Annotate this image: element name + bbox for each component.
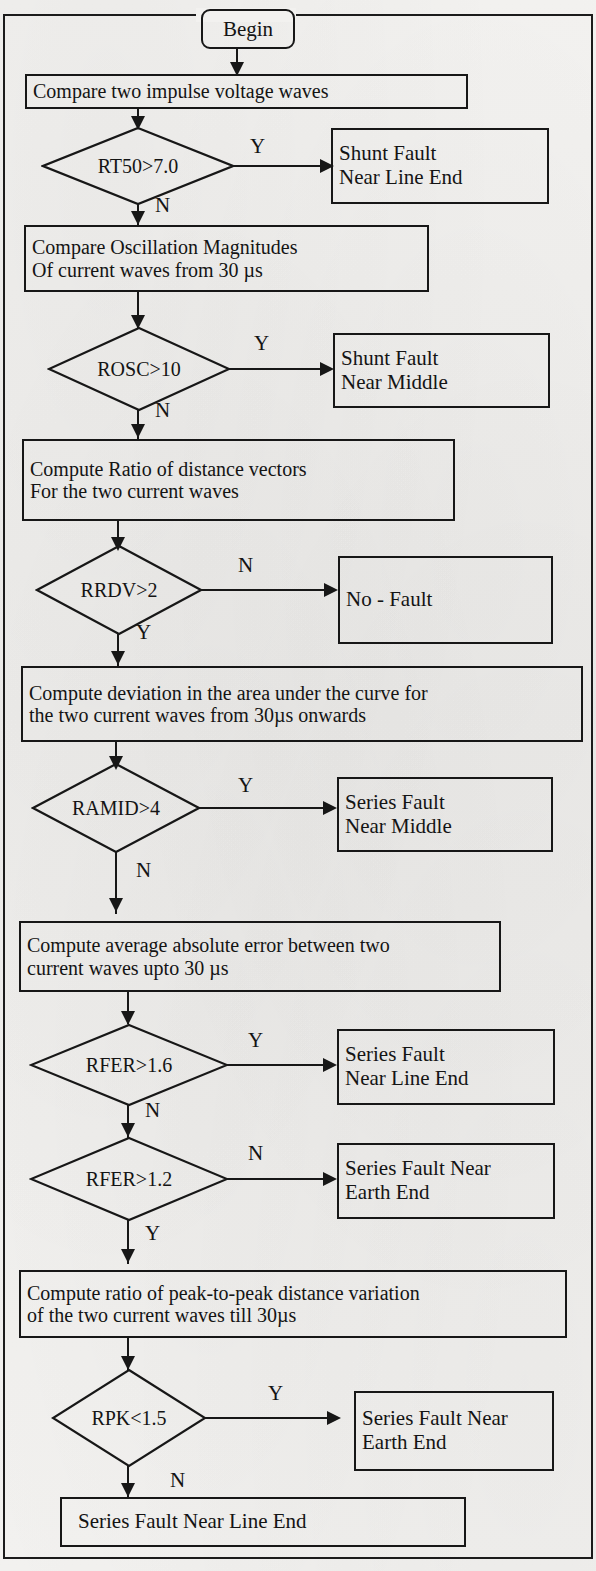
decision-label: RRDV>2 bbox=[81, 579, 158, 602]
process-line: Of current waves from 30 µs bbox=[32, 259, 423, 281]
edge-d5-yes bbox=[227, 1064, 331, 1066]
branch-label-d4-no: N bbox=[136, 860, 151, 881]
outcome-line: Near Middle bbox=[341, 371, 544, 395]
process-line: Compute ratio of peak-to-peak distance v… bbox=[27, 1282, 561, 1304]
begin-terminator: Begin bbox=[201, 9, 295, 49]
outcome-line: Near Line End bbox=[339, 166, 543, 190]
decision-label: RFER>1.6 bbox=[86, 1054, 172, 1077]
edge-d4-yes bbox=[199, 807, 331, 809]
arrowhead-d1-no bbox=[131, 211, 145, 225]
outcome-series-fault-near-earth-end-1: Series Fault Near Earth End bbox=[337, 1143, 555, 1219]
arrowhead-d2-no bbox=[131, 424, 145, 438]
decision-rfer-16: RFER>1.6 bbox=[29, 1023, 229, 1107]
process-compute-area-deviation: Compute deviation in the area under the … bbox=[21, 666, 583, 742]
process-line: current waves upto 30 µs bbox=[27, 957, 495, 979]
process-line: For the two current waves bbox=[30, 480, 449, 502]
process-compare-impulse-voltage: Compare two impulse voltage waves bbox=[25, 74, 468, 109]
outcome-line: Series Fault bbox=[345, 1043, 549, 1067]
branch-label-d3-yes: Y bbox=[136, 622, 151, 643]
branch-label-d5-yes: Y bbox=[248, 1030, 263, 1051]
decision-rpk-label-wrap: RPK<1.5 bbox=[51, 1368, 207, 1468]
flowchart-page: Begin Compare two impulse voltage waves … bbox=[0, 0, 596, 1571]
process-line: Compare Oscillation Magnitudes bbox=[32, 236, 423, 258]
branch-label-d2-no: N bbox=[155, 400, 170, 421]
branch-label-d5-no: N bbox=[145, 1100, 160, 1121]
outcome-line: Earth End bbox=[362, 1431, 548, 1455]
decision-rt50: RT50>7.0 bbox=[41, 126, 235, 206]
decision-rfer-16-label-wrap: RFER>1.6 bbox=[29, 1023, 229, 1107]
arrowhead-d4-no bbox=[109, 898, 123, 912]
arrowhead-d3-no bbox=[324, 583, 338, 597]
edge-d3-no bbox=[201, 589, 332, 591]
arrowhead-d6-no bbox=[323, 1172, 337, 1186]
begin-label: Begin bbox=[223, 19, 273, 40]
decision-label: RPK<1.5 bbox=[91, 1407, 166, 1430]
process-line: Compute deviation in the area under the … bbox=[29, 682, 577, 704]
process-compare-oscillation-magnitudes: Compare Oscillation Magnitudes Of curren… bbox=[24, 225, 429, 292]
outcome-line: Series Fault Near Line End bbox=[68, 1510, 460, 1534]
arrowhead-d2-yes bbox=[320, 362, 334, 376]
arrowhead-d7-yes bbox=[327, 1411, 341, 1425]
decision-label: ROSC>10 bbox=[97, 358, 181, 381]
outcome-line: Shunt Fault bbox=[339, 142, 543, 166]
decision-rfer-12: RFER>1.2 bbox=[29, 1136, 229, 1222]
edge-d2-yes bbox=[229, 368, 327, 370]
edge-d1-yes bbox=[234, 165, 327, 167]
process-compute-ratio-distance-vectors: Compute Ratio of distance vectors For th… bbox=[22, 439, 455, 521]
process-line: Compute Ratio of distance vectors bbox=[30, 458, 449, 480]
branch-label-d7-no: N bbox=[170, 1470, 185, 1491]
branch-label-d1-no: N bbox=[155, 195, 170, 216]
process-line: of the two current waves till 30µs bbox=[27, 1304, 561, 1326]
outcome-series-fault-near-middle: Series Fault Near Middle bbox=[337, 777, 553, 852]
decision-rrdv: RRDV>2 bbox=[35, 544, 203, 636]
outcome-shunt-fault-near-middle: Shunt Fault Near Middle bbox=[333, 333, 550, 408]
decision-rosc: ROSC>10 bbox=[47, 326, 231, 412]
outcome-line: Series Fault Near bbox=[345, 1157, 549, 1181]
branch-label-d6-no: N bbox=[248, 1143, 263, 1164]
decision-rosc-label-wrap: ROSC>10 bbox=[47, 326, 231, 412]
branch-label-d7-yes: Y bbox=[268, 1383, 283, 1404]
outcome-line: Shunt Fault bbox=[341, 347, 544, 371]
arrowhead-d5-yes bbox=[323, 1058, 337, 1072]
outcome-series-fault-near-earth-end-2: Series Fault Near Earth End bbox=[354, 1391, 554, 1471]
outcome-line: No - Fault bbox=[346, 588, 547, 612]
outcome-line: Near Middle bbox=[345, 815, 547, 839]
process-compute-peak-to-peak-ratio: Compute ratio of peak-to-peak distance v… bbox=[19, 1270, 567, 1338]
process-line: Compare two impulse voltage waves bbox=[33, 80, 462, 102]
edge-d7-yes bbox=[205, 1417, 335, 1419]
arrowhead-d5-no bbox=[121, 1123, 135, 1137]
arrowhead-d4-yes bbox=[323, 801, 337, 815]
outcome-line: Series Fault Near bbox=[362, 1407, 548, 1431]
decision-rfer-12-label-wrap: RFER>1.2 bbox=[29, 1136, 229, 1222]
process-compute-average-absolute-error: Compute average absolute error between t… bbox=[19, 921, 501, 992]
outcome-line: Near Line End bbox=[345, 1067, 549, 1091]
outcome-series-fault-near-line-end-final: Series Fault Near Line End bbox=[60, 1497, 466, 1547]
arrowhead-d7-no bbox=[121, 1483, 135, 1497]
arrowhead-d6-yes bbox=[121, 1249, 135, 1263]
decision-rt50-label-wrap: RT50>7.0 bbox=[41, 126, 235, 206]
edge-d6-no bbox=[227, 1178, 331, 1180]
decision-rrdv-label-wrap: RRDV>2 bbox=[35, 544, 203, 636]
outcome-series-fault-near-line-end: Series Fault Near Line End bbox=[337, 1029, 555, 1105]
decision-label: RAMID>4 bbox=[72, 797, 160, 820]
outcome-line: Earth End bbox=[345, 1181, 549, 1205]
decision-label: RFER>1.2 bbox=[86, 1168, 172, 1191]
branch-label-d3-no: N bbox=[238, 555, 253, 576]
outcome-no-fault: No - Fault bbox=[338, 556, 553, 644]
decision-label: RT50>7.0 bbox=[98, 155, 179, 178]
outcome-line: Series Fault bbox=[345, 791, 547, 815]
process-line: Compute average absolute error between t… bbox=[27, 934, 495, 956]
process-line: the two current waves from 30µs onwards bbox=[29, 704, 577, 726]
decision-ramid: RAMID>4 bbox=[31, 762, 201, 854]
branch-label-d6-yes: Y bbox=[145, 1223, 160, 1244]
branch-label-d4-yes: Y bbox=[238, 775, 253, 796]
arrowhead-d3-yes bbox=[111, 651, 125, 665]
decision-ramid-label-wrap: RAMID>4 bbox=[31, 762, 201, 854]
decision-rpk: RPK<1.5 bbox=[51, 1368, 207, 1468]
branch-label-d1-yes: Y bbox=[250, 136, 265, 157]
branch-label-d2-yes: Y bbox=[254, 333, 269, 354]
outcome-shunt-fault-near-line-end: Shunt Fault Near Line End bbox=[331, 128, 549, 204]
